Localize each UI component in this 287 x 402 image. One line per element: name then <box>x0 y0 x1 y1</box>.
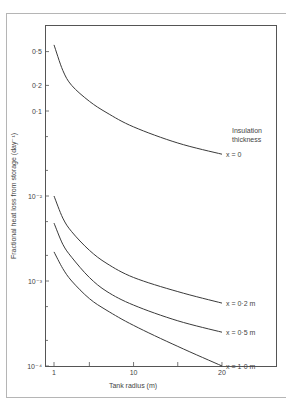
series-label-2: x = 0·5 m <box>226 329 256 336</box>
legend-title-line1: Insulation <box>232 127 262 134</box>
series-line-2 <box>54 223 222 332</box>
y-tick-label: 0·2 <box>32 82 42 89</box>
series-line-0 <box>54 45 222 154</box>
series-line-3 <box>54 252 222 366</box>
series-label-1: x = 0·2 m <box>226 300 256 307</box>
y-axis-title: Fractional heat loss from storage (day⁻¹… <box>10 133 18 259</box>
y-tick-label: 10⁻⁴ <box>27 363 42 370</box>
y-tick-label: 10⁻³ <box>28 278 43 285</box>
chart-figure: 10⁻⁴10⁻³10⁻²0·10·20·5 11020 x = 0x = 0·2… <box>0 0 286 402</box>
x-tick-label: 20 <box>218 369 226 376</box>
series-lines <box>54 45 222 366</box>
x-tick-label: 1 <box>52 369 56 376</box>
series-labels: x = 0x = 0·2 mx = 0·5 mx = 1·0 m <box>226 151 256 370</box>
series-label-3: x = 1·0 m <box>226 363 256 370</box>
series-line-1 <box>54 196 222 303</box>
legend-title-line2: thickness <box>232 136 262 143</box>
y-tick-label: 10⁻² <box>28 193 43 200</box>
series-label-0: x = 0 <box>226 151 241 158</box>
y-tick-label: 0·1 <box>32 108 42 115</box>
x-axis: 11020 <box>52 362 226 376</box>
y-tick-label: 0·5 <box>32 48 42 55</box>
outer-frame <box>7 14 287 398</box>
x-tick-label: 10 <box>130 369 138 376</box>
x-axis-title: Tank radius (m) <box>109 382 157 390</box>
